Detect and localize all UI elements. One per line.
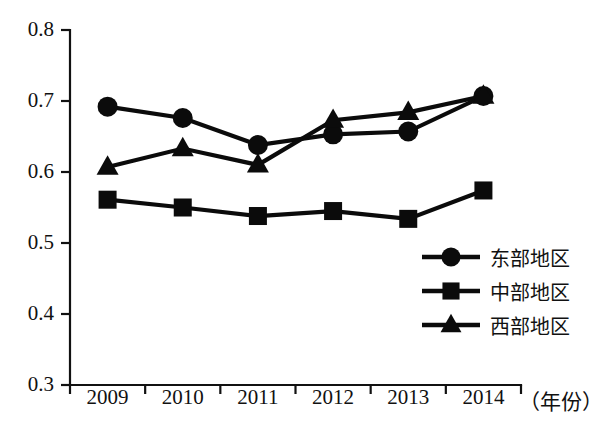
y-tick-label: 0.8 [2,17,54,42]
data-point-marker [324,202,342,220]
data-point-marker [248,135,268,155]
chart-legend: 东部地区中部地区西部地区 [420,240,570,342]
data-point-marker [172,137,194,156]
data-point-marker [474,181,492,199]
series-line [108,96,484,167]
series-line [108,190,484,218]
legend-marker-square-icon [420,278,482,304]
series-line [108,96,484,145]
series-triangle [97,84,495,174]
legend-item[interactable]: 中部地区 [420,274,570,308]
legend-item-label: 中部地区 [490,277,570,306]
x-tick-label: 2009 [68,385,148,410]
y-tick-label: 0.5 [2,230,54,255]
x-tick-label: 2010 [143,385,223,410]
series-square [99,181,493,227]
y-axis [61,30,70,385]
x-tick-label: 2011 [218,385,298,410]
y-tick-label: 0.3 [2,372,54,397]
data-point-marker [98,97,118,117]
x-axis-title: （年份） [519,385,603,415]
data-point-marker [173,108,193,128]
legend-item[interactable]: 东部地区 [420,240,570,274]
x-tick-label: 2012 [293,385,373,410]
legend-item[interactable]: 西部地区 [420,308,570,342]
y-tick-label: 0.7 [2,88,54,113]
data-point-marker [398,122,418,142]
data-series-layer [97,84,495,228]
y-tick-label: 0.4 [2,301,54,326]
legend-marker-triangle-icon [420,312,482,338]
legend-item-label: 西部地区 [490,311,570,340]
legend-item-label: 东部地区 [490,243,570,272]
line-chart: 0.30.40.50.60.70.8 200920102011201220132… [0,0,608,445]
x-tick-label: 2013 [368,385,448,410]
y-axis-ticks [61,30,70,385]
y-tick-label: 0.6 [2,159,54,184]
data-point-marker [399,210,417,228]
data-point-marker [249,207,267,225]
x-tick-label: 2014 [443,385,523,410]
legend-marker-circle-icon [420,244,482,270]
data-point-marker [174,199,192,217]
chart-plot-area [0,0,608,445]
data-point-marker [99,191,117,209]
